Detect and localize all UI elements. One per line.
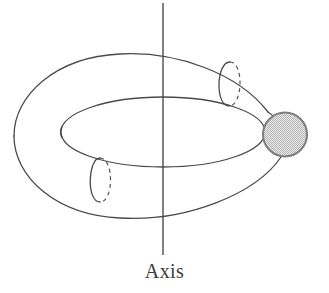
generating-circle-group bbox=[263, 113, 307, 157]
cross-section-lower-left-group bbox=[90, 158, 110, 202]
cross-section-upper-right-solid-arc bbox=[219, 62, 230, 106]
torus-outer-outline-group bbox=[14, 54, 296, 219]
generating-circle-shaded bbox=[263, 113, 307, 157]
axis-label: Axis bbox=[0, 259, 329, 283]
torus-diagram-canvas bbox=[0, 0, 329, 293]
torus-figure: Axis bbox=[0, 0, 329, 293]
torus-outer-top-arc bbox=[14, 54, 268, 136]
cross-section-lower-left-solid-arc bbox=[90, 158, 100, 202]
cross-section-lower-left-dashed-arc bbox=[100, 158, 111, 202]
torus-outer-bottom-arc bbox=[14, 136, 281, 218]
